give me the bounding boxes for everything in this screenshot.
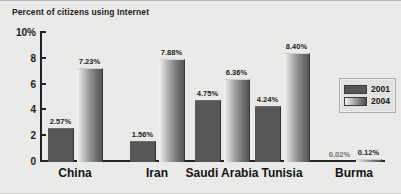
y-tick-mark <box>40 160 46 162</box>
legend-label-2001: 2001 <box>371 85 390 94</box>
category-label-iran: Iran <box>146 166 168 180</box>
bar-iran-2004 <box>159 59 185 162</box>
bar-value-label: 6.36% <box>220 68 254 77</box>
y-tick-mark <box>40 31 46 33</box>
category-label-burma: Burma <box>335 166 373 180</box>
y-tick-label: 8 <box>30 52 36 63</box>
y-tick-mark <box>40 134 46 136</box>
bar-value-label: 7.23% <box>73 57 107 66</box>
category-label-china: China <box>58 166 91 180</box>
y-tick-label: 0 <box>30 156 36 167</box>
y-tick-label: 2 <box>30 130 36 141</box>
bar-china-2004 <box>77 68 103 162</box>
y-axis-line <box>40 32 42 162</box>
bar-value-label: 7.88% <box>155 48 189 57</box>
bar-saudi-arabia-2004 <box>224 79 250 162</box>
bar-china-2001 <box>48 128 74 162</box>
bar-value-label: 2.57% <box>44 117 78 126</box>
y-tick-label: 4 <box>30 104 36 115</box>
bar-value-label: 4.75% <box>191 89 225 98</box>
legend-item-2004: 2004 <box>344 96 390 107</box>
legend-item-2001: 2001 <box>344 84 390 95</box>
bar-value-label: 8.40% <box>280 42 314 51</box>
y-tick-mark <box>40 83 46 85</box>
bar-saudi-arabia-2001 <box>195 100 221 162</box>
bar-burma-2004 <box>356 159 382 162</box>
y-tick-label: 6 <box>30 78 36 89</box>
legend-label-2004: 2004 <box>371 97 390 106</box>
bar-tunisia-2004 <box>284 53 310 162</box>
y-axis-tick-labels: 0246810% <box>0 1 36 194</box>
y-tick-mark <box>40 108 46 110</box>
y-tick-mark <box>40 57 46 59</box>
category-label-tunisia: Tunisia <box>261 166 302 180</box>
bar-tunisia-2001 <box>255 106 281 162</box>
category-label-saudi-arabia: Saudi Arabia <box>186 166 259 180</box>
bar-value-label: 4.24% <box>251 95 285 104</box>
y-tick-label: 10% <box>16 27 36 38</box>
bar-chart: Percent of citizens using Internet 02468… <box>0 0 401 194</box>
chart-legend: 2001 2004 <box>339 78 396 113</box>
bar-iran-2001 <box>130 141 156 162</box>
bar-value-label: 1.56% <box>126 130 160 139</box>
bar-value-label: 0.12% <box>352 148 386 157</box>
legend-swatch-2001-icon <box>344 85 367 94</box>
legend-swatch-2004-icon <box>344 97 367 106</box>
